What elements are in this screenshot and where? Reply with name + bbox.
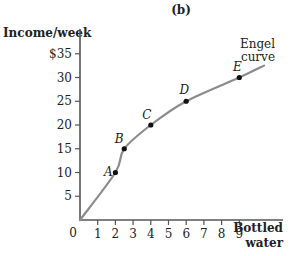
x-tick-label: 8 — [218, 227, 226, 241]
x-tick-label: 3 — [129, 227, 137, 241]
y-ticks: 51015202530$35 — [49, 47, 80, 204]
panel-label: (b) — [171, 3, 191, 17]
x-tick-label: 6 — [182, 227, 190, 241]
point-label: A — [103, 165, 113, 179]
x-axis-label-line2: water — [244, 236, 283, 250]
point-b — [122, 146, 127, 151]
x-tick-label: 7 — [200, 227, 208, 241]
point-e — [237, 75, 242, 80]
data-points: ABCDE — [103, 60, 242, 179]
curve-label-line2: curve — [241, 50, 275, 64]
y-tick-label: 25 — [57, 94, 72, 108]
point-d — [184, 99, 189, 104]
x-tick-label: 4 — [147, 227, 155, 241]
curve-label-line1: Engel — [240, 37, 275, 51]
x-tick-label: 1 — [94, 227, 102, 241]
engel-curve-line — [80, 66, 264, 220]
y-tick-label: 20 — [57, 118, 72, 132]
point-label: B — [114, 132, 124, 146]
y-tick-label: 10 — [57, 166, 72, 180]
x-ticks: 123456789 — [94, 220, 243, 241]
engel-curve-chart: (b) Income/week 51015202530$35 123456789… — [0, 0, 295, 256]
y-tick-label: 30 — [57, 71, 72, 85]
y-tick-label: 15 — [57, 142, 72, 156]
origin-label: 0 — [69, 226, 77, 240]
x-tick-label: 2 — [112, 227, 120, 241]
y-tick-label: 5 — [64, 189, 72, 203]
point-a — [113, 170, 118, 175]
y-tick-label: $35 — [49, 47, 72, 61]
point-c — [148, 122, 153, 127]
x-tick-label: 5 — [165, 227, 173, 241]
x-axis-label-line1: Bottled — [233, 221, 283, 235]
point-label: C — [142, 108, 151, 122]
point-label: D — [178, 83, 189, 97]
y-axis-label: Income/week — [3, 26, 92, 40]
point-label: E — [232, 60, 242, 74]
